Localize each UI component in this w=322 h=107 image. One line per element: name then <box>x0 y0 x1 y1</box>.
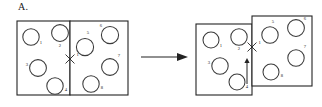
vesicle-label: 2 <box>238 46 241 51</box>
before-junction-mark: 1 <box>66 52 80 64</box>
vesicle-circle <box>203 32 219 48</box>
displacement-up-arrow-icon <box>244 58 249 84</box>
after-vesicle-group: 12345678 <box>203 16 307 90</box>
vesicle-circle <box>263 64 279 80</box>
vesicle-label: 8 <box>281 73 284 78</box>
vesicle-label: 3 <box>208 60 211 65</box>
right-arrow-icon-head <box>177 53 188 61</box>
junction-annotation: 1 <box>259 40 262 45</box>
vesicle-circle <box>288 20 305 37</box>
vesicle-label: 7 <box>304 44 307 49</box>
vesicle-circle <box>83 76 99 92</box>
panel-label: A. <box>18 1 28 12</box>
junction-x-stroke <box>248 43 256 51</box>
vesicle-label: 6 <box>100 23 103 28</box>
junction-x-stroke <box>248 43 256 51</box>
diagram-canvas: 12345678 1 12345678 1 <box>0 0 322 107</box>
vesicle-circle <box>101 26 118 43</box>
transition-arrow <box>141 53 188 61</box>
vesicle-circle <box>52 25 69 42</box>
vesicle-label: 3 <box>26 62 29 67</box>
diagram-svg: 12345678 1 12345678 1 <box>0 0 322 107</box>
vesicle-label: 4 <box>246 84 249 89</box>
vesicle-label: 7 <box>118 53 121 58</box>
before-vesicle-group: 12345678 <box>23 23 121 94</box>
vesicle-circle <box>231 29 247 45</box>
after-junction-mark: 1 <box>248 40 262 52</box>
vesicle-circle <box>262 27 278 43</box>
vesicle-label: 6 <box>304 16 307 21</box>
after-right-cell-box-displaced <box>252 16 312 86</box>
vesicle-circle <box>30 60 47 77</box>
after-left-cell-box <box>196 24 252 95</box>
vesicle-label: 5 <box>87 30 90 35</box>
before-state-group: 12345678 1 <box>17 21 128 95</box>
vesicle-circle <box>23 29 39 45</box>
vesicle-circle <box>102 59 119 76</box>
after-state-group: 12345678 1 <box>196 16 312 95</box>
vesicle-label: 4 <box>65 87 68 92</box>
up-arrow-icon-head <box>244 58 249 63</box>
figure-panel-a: A. 12345678 1 12345678 1 <box>0 0 322 107</box>
vesicle-label: 8 <box>101 85 104 90</box>
vesicle-circle <box>76 38 93 55</box>
junction-x-stroke <box>66 55 74 63</box>
vesicle-label: 2 <box>59 43 62 48</box>
vesicle-circle <box>288 50 304 66</box>
vesicle-circle <box>47 78 63 94</box>
vesicle-circle <box>212 58 228 74</box>
junction-x-stroke <box>66 55 74 63</box>
junction-annotation: 1 <box>77 52 80 57</box>
vesicle-label: 1 <box>40 40 43 45</box>
before-left-cell-box <box>17 21 70 95</box>
vesicle-label: 5 <box>272 19 275 24</box>
vesicle-label: 1 <box>220 43 223 48</box>
vesicle-circle <box>229 74 245 90</box>
before-right-cell-box <box>70 21 128 95</box>
